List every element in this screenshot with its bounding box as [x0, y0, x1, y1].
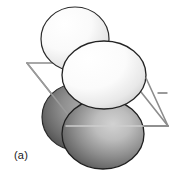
- sphere-front-light: [62, 41, 146, 109]
- figure-container: (a): [0, 0, 194, 184]
- panel-label: (a): [14, 150, 28, 161]
- plane-front-edges: [144, 78, 168, 126]
- sphere-plane-illustration: [0, 0, 194, 184]
